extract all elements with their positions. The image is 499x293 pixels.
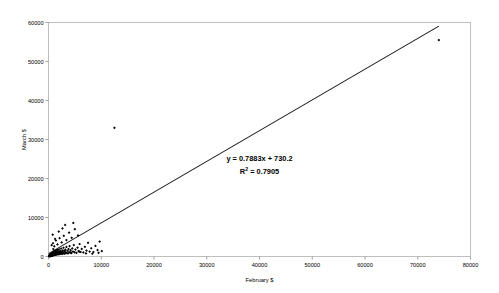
data-point-group <box>48 39 440 258</box>
y-tick-label: 10000 <box>28 215 44 221</box>
x-tick-label: 50000 <box>304 262 320 268</box>
y-axis: 0100002000030000400005000060000March $ <box>21 20 49 260</box>
data-point <box>97 251 100 254</box>
data-point <box>72 222 75 225</box>
data-point <box>56 243 59 246</box>
y-tick-label: 30000 <box>28 137 44 143</box>
data-point <box>75 251 78 254</box>
x-tick-label: 60000 <box>357 262 373 268</box>
data-point <box>61 227 64 230</box>
data-point <box>71 247 74 250</box>
data-point <box>68 231 71 234</box>
plot-area-frame <box>49 23 471 257</box>
data-point <box>98 240 101 243</box>
data-point <box>80 248 83 251</box>
data-point <box>60 241 63 244</box>
data-point <box>65 239 68 242</box>
y-tick-label: 40000 <box>28 98 44 104</box>
data-point <box>85 249 88 252</box>
x-tick-label: 20000 <box>146 262 162 268</box>
data-point <box>58 237 61 240</box>
data-point <box>438 39 441 42</box>
data-point <box>85 252 88 255</box>
data-point <box>90 247 93 250</box>
scatter-chart-svg: 0100002000030000400005000060000700008000… <box>0 0 499 293</box>
data-point <box>84 245 87 248</box>
regression-equation-label: y = 0.7883x + 730.2 <box>226 154 292 163</box>
scatter-chart-container: 0100002000030000400005000060000700008000… <box>0 0 499 293</box>
data-point <box>72 244 75 247</box>
data-point <box>52 242 55 245</box>
y-tick-label: 60000 <box>28 20 44 26</box>
data-point <box>74 248 77 251</box>
data-point <box>53 245 56 248</box>
data-point <box>70 236 73 239</box>
data-point <box>74 228 77 231</box>
data-point <box>82 251 85 254</box>
data-point <box>64 224 67 227</box>
x-tick-label: 70000 <box>410 262 426 268</box>
x-tick-label: 80000 <box>463 262 479 268</box>
data-point <box>62 234 65 237</box>
data-point <box>60 247 63 250</box>
x-axis: 0100002000030000400005000060000700008000… <box>47 257 478 283</box>
data-point <box>100 250 103 253</box>
x-axis-title: February $ <box>245 277 274 283</box>
y-tick-label: 0 <box>40 254 43 260</box>
data-point <box>88 250 91 253</box>
data-point <box>94 245 97 248</box>
y-tick-label: 50000 <box>28 59 44 65</box>
x-tick-label: 40000 <box>252 262 268 268</box>
data-point <box>68 245 71 248</box>
x-tick-label: 10000 <box>93 262 109 268</box>
data-point <box>50 244 53 247</box>
data-point <box>57 230 60 233</box>
data-point <box>51 233 54 236</box>
data-point <box>96 249 99 252</box>
data-point <box>62 246 65 249</box>
regression-trendline <box>49 26 439 254</box>
data-point <box>65 246 68 249</box>
data-point <box>113 126 116 129</box>
y-tick-label: 20000 <box>28 176 44 182</box>
x-tick-label: 0 <box>47 262 50 268</box>
y-axis-title: March $ <box>21 128 27 150</box>
r-squared-label: R2 = 0.7905 <box>240 166 279 175</box>
x-tick-label: 30000 <box>199 262 215 268</box>
data-point <box>87 242 90 245</box>
data-point <box>76 246 79 249</box>
data-point <box>78 243 81 246</box>
